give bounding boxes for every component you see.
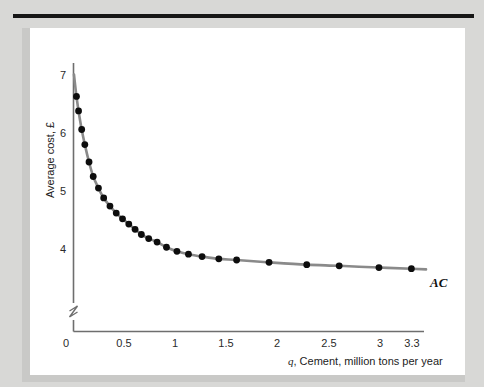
y-tick-label: 4 (60, 243, 66, 255)
data-point (303, 261, 310, 268)
y-tick-labels: 7 6 5 4 (60, 69, 66, 255)
series-label-ac: AC (429, 275, 448, 290)
x-tick-labels: 0 0.5 1 1.5 2 2.5 3 3.3 (63, 337, 420, 349)
data-point (75, 108, 82, 115)
data-series-layer (73, 74, 426, 272)
data-point (185, 251, 192, 258)
data-point (107, 203, 114, 210)
data-point (163, 244, 170, 251)
data-point (78, 126, 85, 133)
data-point (376, 264, 383, 271)
x-axis-title-rest: , Cement, million tons per year (294, 355, 444, 367)
chart-canvas: 7 6 5 4 0 0.5 1 1.5 2 2.5 3 3.3 AC Avera… (0, 0, 484, 387)
data-point (125, 221, 132, 228)
x-tick-label: 1 (172, 337, 178, 349)
data-point (138, 231, 145, 238)
data-point (233, 257, 240, 264)
data-point (336, 262, 343, 269)
y-tick-label: 5 (60, 185, 66, 197)
data-point (119, 215, 126, 222)
x-tick-label: 2.5 (321, 337, 336, 349)
data-point (90, 173, 97, 180)
data-point (145, 235, 152, 242)
axis-break-icon (70, 306, 78, 317)
data-point (81, 141, 88, 148)
data-point (132, 226, 139, 233)
x-tick-label: 1.5 (218, 337, 233, 349)
x-tick-label: 0.5 (116, 337, 131, 349)
data-point (100, 195, 107, 202)
y-axis-title: Average cost, £ (44, 122, 56, 198)
data-point (95, 185, 102, 192)
y-tick-label: 7 (60, 69, 66, 81)
figure-root: 7 6 5 4 0 0.5 1 1.5 2 2.5 3 3.3 AC Avera… (0, 0, 484, 387)
y-tick-label: 6 (60, 127, 66, 139)
data-point (154, 239, 161, 246)
data-point (266, 259, 273, 266)
data-point (408, 265, 415, 272)
x-tick-label: 3.3 (404, 337, 419, 349)
x-tick-label: 3 (377, 337, 383, 349)
data-point (113, 210, 120, 217)
x-axis-title: q, Cement, million tons per year (288, 355, 443, 367)
data-point (215, 255, 222, 262)
x-tick-label: 2 (274, 337, 280, 349)
curve-ac (76, 96, 411, 268)
data-point (86, 159, 93, 166)
x-tick-label: 0 (63, 337, 69, 349)
data-point (199, 253, 206, 260)
data-point (174, 248, 181, 255)
data-point (73, 93, 80, 100)
